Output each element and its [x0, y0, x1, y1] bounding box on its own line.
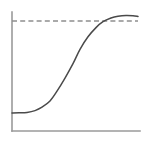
plot-area [0, 0, 146, 141]
chart-figure [0, 0, 146, 141]
